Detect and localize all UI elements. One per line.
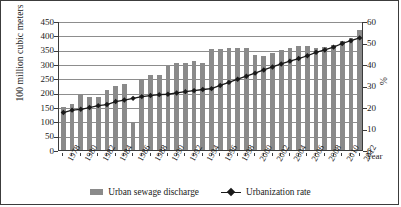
chart-legend: Urban sewage discharge Urbanization rate xyxy=(1,187,400,197)
urbanization-rate-line xyxy=(63,38,359,113)
data-point-marker xyxy=(218,83,223,88)
data-point-marker xyxy=(69,107,74,112)
x-tick-mark xyxy=(97,153,98,156)
data-point-marker xyxy=(130,96,135,101)
y-tick-label-right: 50 xyxy=(367,39,387,48)
x-tick-mark xyxy=(89,153,90,156)
x-tick-mark xyxy=(141,153,142,156)
data-point-marker xyxy=(322,47,327,52)
data-point-marker xyxy=(104,102,109,107)
x-tick-mark xyxy=(228,153,229,156)
data-point-marker xyxy=(270,64,275,69)
data-point-marker xyxy=(78,107,83,112)
data-point-marker xyxy=(287,58,292,63)
line-series-urbanization-rate xyxy=(59,22,364,151)
y-tick-label-left: 100 xyxy=(28,118,54,127)
data-point-marker xyxy=(340,41,345,46)
urbanization-rate-markers xyxy=(61,35,363,115)
data-point-marker xyxy=(235,76,240,81)
x-tick-mark xyxy=(184,153,185,156)
data-point-marker xyxy=(313,50,318,55)
y-tick-label-right: 20 xyxy=(367,104,387,113)
x-tick-mark xyxy=(106,153,107,156)
y-axis-label-left: 100 million cubic meters xyxy=(15,0,25,119)
data-point-marker xyxy=(244,73,249,78)
x-tick-mark xyxy=(176,153,177,156)
data-point-marker xyxy=(209,86,214,91)
x-tick-mark xyxy=(71,153,72,156)
x-tick-mark xyxy=(219,153,220,156)
x-tick-mark xyxy=(359,153,360,156)
x-tick-mark xyxy=(306,153,307,156)
legend-item-urbanization-rate: Urbanization rate xyxy=(221,187,311,197)
data-point-marker xyxy=(174,90,179,95)
x-tick-mark xyxy=(158,153,159,156)
y-tick-label-left: 350 xyxy=(28,46,54,55)
y-tick-label-right: 10 xyxy=(367,125,387,134)
y-tick-label-left: 250 xyxy=(28,75,54,84)
x-tick-mark xyxy=(237,153,238,156)
data-point-marker xyxy=(305,53,310,58)
x-tick-mark xyxy=(193,153,194,156)
y-tick-label-left: 0 xyxy=(28,147,54,156)
data-point-marker xyxy=(157,92,162,97)
y-tick-mark-left xyxy=(54,151,58,152)
data-point-marker xyxy=(165,92,170,97)
x-tick-mark xyxy=(280,153,281,156)
x-tick-mark xyxy=(254,153,255,156)
legend-label-urban-sewage-discharge: Urban sewage discharge xyxy=(108,187,199,197)
x-tick-mark xyxy=(211,153,212,156)
data-point-marker xyxy=(183,89,188,94)
data-point-marker xyxy=(139,94,144,99)
x-tick-mark xyxy=(272,153,273,156)
x-tick-mark xyxy=(245,153,246,156)
legend-label-urbanization-rate: Urbanization rate xyxy=(246,187,311,197)
data-point-marker xyxy=(61,110,66,115)
data-point-marker xyxy=(226,80,231,85)
plot-area xyxy=(58,22,363,151)
x-tick-mark xyxy=(298,153,299,156)
x-tick-mark xyxy=(350,153,351,156)
data-point-marker xyxy=(331,44,336,49)
x-tick-mark xyxy=(167,153,168,156)
x-tick-mark xyxy=(333,153,334,156)
x-tick-mark xyxy=(132,153,133,156)
x-tick-mark xyxy=(315,153,316,156)
legend-item-urban-sewage-discharge: Urban sewage discharge xyxy=(90,187,199,197)
x-tick-mark xyxy=(62,153,63,156)
x-tick-mark xyxy=(123,153,124,156)
y-tick-label-right: 30 xyxy=(367,82,387,91)
x-tick-mark xyxy=(289,153,290,156)
y-tick-label-left: 200 xyxy=(28,89,54,98)
chart-figure: 100 million cubic meters % Year 05010015… xyxy=(0,0,399,205)
data-point-marker xyxy=(348,38,353,43)
data-point-marker xyxy=(96,103,101,108)
x-tick-mark xyxy=(341,153,342,156)
y-tick-label-left: 400 xyxy=(28,32,54,41)
data-point-marker xyxy=(191,88,196,93)
data-point-marker xyxy=(113,99,118,104)
data-point-marker xyxy=(252,70,257,75)
data-point-marker xyxy=(200,87,205,92)
y-tick-label-right: 60 xyxy=(367,18,387,27)
line-marker-swatch-icon xyxy=(221,188,241,196)
y-tick-label-left: 150 xyxy=(28,104,54,113)
bar-swatch-icon xyxy=(90,189,103,195)
x-tick-mark xyxy=(150,153,151,156)
y-tick-label-right: 40 xyxy=(367,61,387,70)
y-tick-label-left: 300 xyxy=(28,61,54,70)
x-tick-mark xyxy=(324,153,325,156)
x-tick-mark xyxy=(80,153,81,156)
y-tick-label-left: 50 xyxy=(28,132,54,141)
data-point-marker xyxy=(148,93,153,98)
data-point-marker xyxy=(87,105,92,110)
data-point-marker xyxy=(357,35,362,40)
y-tick-label-left: 450 xyxy=(28,18,54,27)
data-point-marker xyxy=(261,67,266,72)
x-tick-mark xyxy=(263,153,264,156)
data-point-marker xyxy=(279,61,284,66)
x-tick-mark xyxy=(202,153,203,156)
data-point-marker xyxy=(296,56,301,61)
data-point-marker xyxy=(122,97,127,102)
x-tick-mark xyxy=(115,153,116,156)
